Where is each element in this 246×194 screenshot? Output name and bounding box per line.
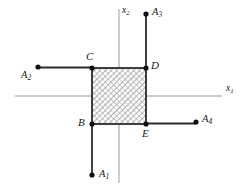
geometry-figure: x2 x1 C D B E A1 A2 A3 A4 — [0, 0, 246, 194]
point-label-a4: A4 — [202, 114, 212, 126]
point-dot-a3 — [143, 11, 148, 16]
point-label-a1: A1 — [99, 169, 109, 181]
point-label-a3: A3 — [152, 7, 162, 19]
point-dot-a2 — [35, 64, 40, 69]
vertex-dot-c — [89, 65, 94, 70]
point-label-a2: A2 — [21, 70, 31, 82]
vertex-dot-b — [89, 121, 94, 126]
vertex-label-c: C — [86, 51, 93, 62]
diagram-canvas — [0, 0, 246, 194]
point-dot-a4 — [193, 119, 198, 124]
vertex-dot-e — [143, 121, 148, 126]
hatched-rectangle-cross — [92, 68, 146, 124]
vertex-dot-d — [143, 65, 148, 70]
x1-axis-label: x1 — [226, 84, 234, 95]
x2-axis-label: x2 — [122, 6, 130, 17]
vertex-label-d: D — [151, 60, 159, 71]
vertex-label-e: E — [142, 128, 149, 139]
vertex-label-b: B — [78, 117, 85, 128]
point-dot-a1 — [89, 172, 94, 177]
